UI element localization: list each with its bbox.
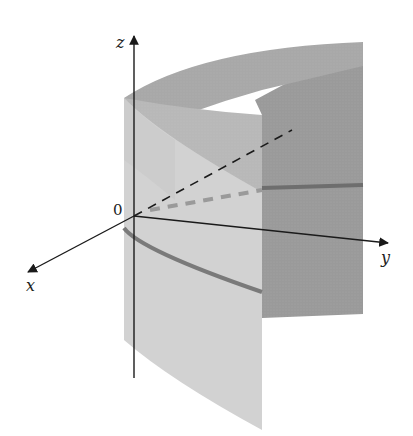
x-axis-label: x [26, 276, 35, 295]
cylinder-diagram: z y x 0 [0, 0, 413, 436]
origin-label: 0 [113, 201, 123, 219]
y-axis-label: y [380, 248, 391, 267]
z-axis-label: z [115, 33, 125, 52]
x-axis [28, 216, 134, 272]
